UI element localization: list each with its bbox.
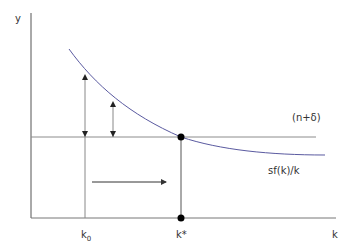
kstar-axis-point — [178, 215, 185, 222]
down-arrow-head-icon — [110, 131, 116, 137]
up-arrow-head-icon — [110, 101, 116, 107]
down-arrow-head-icon — [82, 131, 88, 137]
x-axis-label: k — [332, 230, 338, 240]
up-arrow-head-icon — [82, 74, 88, 80]
steady-state-point — [178, 134, 185, 141]
sfk-over-k-label: sf(k)/k — [268, 166, 299, 176]
solow-diagram — [0, 0, 353, 249]
sfk-over-k-curve — [69, 49, 325, 155]
k0-subscript: 0 — [87, 235, 91, 243]
n-delta-label: (n+δ) — [292, 113, 321, 123]
kstar-tick-label: k* — [176, 230, 187, 240]
k0-tick-label: k0 — [81, 230, 91, 243]
y-axis-label: y — [15, 14, 21, 24]
